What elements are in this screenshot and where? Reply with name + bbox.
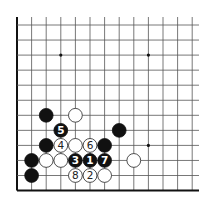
white-stone — [98, 169, 112, 183]
black-stone — [25, 154, 39, 168]
black-stone — [39, 139, 53, 153]
stone-disc — [39, 108, 53, 122]
black-stone: 1 — [83, 154, 97, 168]
stone-disc — [54, 154, 68, 168]
stone-disc — [112, 123, 126, 137]
stone-disc — [39, 139, 53, 153]
black-stone — [25, 169, 39, 183]
white-stone: 4 — [54, 139, 68, 153]
stone-disc — [98, 139, 112, 153]
black-stone: 3 — [69, 154, 83, 168]
black-stone — [98, 139, 112, 153]
go-board: 54631782 — [0, 0, 212, 204]
move-number-label: 8 — [72, 169, 79, 181]
black-stone: 7 — [98, 154, 112, 168]
star-point — [59, 54, 62, 57]
white-stone: 8 — [69, 169, 83, 183]
stone-disc — [25, 169, 39, 183]
black-stone: 5 — [54, 123, 68, 137]
white-stone — [69, 139, 83, 153]
black-stone — [39, 108, 53, 122]
white-stone: 2 — [83, 169, 97, 183]
white-stone — [127, 154, 141, 168]
black-stone — [112, 123, 126, 137]
stone-disc — [69, 139, 83, 153]
move-number-label: 7 — [101, 154, 108, 166]
stone-disc — [127, 154, 141, 168]
white-stone — [54, 154, 68, 168]
move-number-label: 1 — [86, 154, 93, 166]
stone-disc — [98, 169, 112, 183]
move-number-label: 5 — [57, 124, 64, 136]
star-point — [147, 144, 150, 147]
stone-disc — [39, 154, 53, 168]
move-number-label: 4 — [57, 139, 64, 151]
move-number-label: 6 — [87, 139, 94, 151]
stone-disc — [25, 154, 39, 168]
move-number-label: 2 — [87, 169, 94, 181]
stone-disc — [69, 108, 83, 122]
move-number-label: 3 — [72, 154, 79, 166]
white-stone — [39, 154, 53, 168]
star-point — [147, 54, 150, 57]
white-stone: 6 — [83, 139, 97, 153]
white-stone — [69, 108, 83, 122]
